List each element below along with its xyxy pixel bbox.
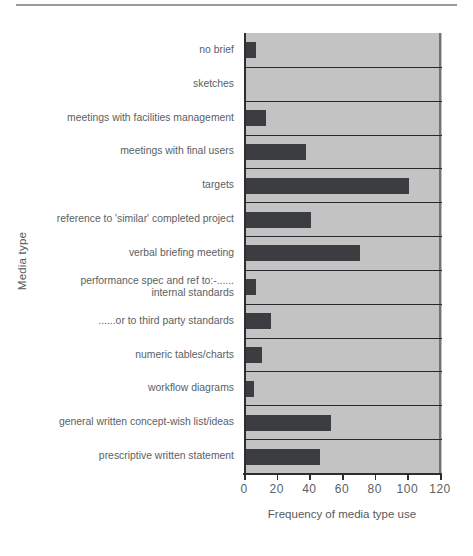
x-axis-tick — [407, 473, 409, 480]
bar[interactable] — [246, 178, 409, 194]
bar-row — [246, 439, 442, 473]
bar-row — [246, 168, 442, 202]
bar[interactable] — [246, 245, 360, 261]
x-axis-tick — [277, 473, 279, 480]
y-axis-tick-label: performance spec and ref to:-......inter… — [20, 270, 238, 304]
x-axis-tick-label: 120 — [420, 482, 460, 496]
y-axis-tick-label: prescriptive written statement — [20, 439, 238, 473]
y-axis-tick-label: verbal briefing meeting — [20, 236, 238, 270]
bar-row — [246, 304, 442, 338]
bar-row — [246, 33, 442, 67]
x-axis-tick — [244, 473, 246, 480]
bar-row — [246, 270, 442, 304]
bar[interactable] — [246, 381, 254, 397]
bar-chart-figure: Media type no briefsketchesmeetings with… — [0, 0, 473, 556]
x-axis-tick — [309, 473, 311, 480]
bar[interactable] — [246, 415, 331, 431]
bar[interactable] — [246, 347, 262, 363]
y-axis-tick-label: targets — [20, 168, 238, 202]
bar[interactable] — [246, 279, 256, 295]
bar-row — [246, 202, 442, 236]
y-axis-tick-label: sketches — [20, 67, 238, 101]
page-top-rule — [16, 4, 457, 6]
bar[interactable] — [246, 449, 320, 465]
y-axis-tick-label: general written concept-wish list/ideas — [20, 405, 238, 439]
bar-row — [246, 67, 442, 101]
y-axis-tick-label: meetings with final users — [20, 135, 238, 169]
x-axis-tick — [342, 473, 344, 480]
bar-row — [246, 405, 442, 439]
bar-row — [246, 101, 442, 135]
bar-row — [246, 236, 442, 270]
bar-row — [246, 371, 442, 405]
bar[interactable] — [246, 42, 256, 58]
x-axis-tick — [375, 473, 377, 480]
plot-right-spine — [439, 33, 441, 473]
bar[interactable] — [246, 313, 271, 329]
y-axis-tick-label: numeric tables/charts — [20, 338, 238, 372]
x-axis-tick — [440, 473, 442, 480]
bar-row — [246, 135, 442, 169]
bar[interactable] — [246, 212, 311, 228]
y-axis-tick-label: workflow diagrams — [20, 371, 238, 405]
y-axis-tick-label: reference to 'similar' completed project — [20, 202, 238, 236]
bar[interactable] — [246, 110, 266, 126]
y-axis-tick-label: no brief — [20, 33, 238, 67]
bar[interactable] — [246, 144, 306, 160]
x-axis-title: Frequency of media type use — [244, 508, 440, 520]
y-axis-tick-label: meetings with facilities management — [20, 101, 238, 135]
y-axis-tick-labels: no briefsketchesmeetings with facilities… — [20, 33, 238, 473]
y-axis-tick-label: ......or to third party standards — [20, 304, 238, 338]
plot-area — [244, 33, 442, 473]
bar-row — [246, 338, 442, 372]
